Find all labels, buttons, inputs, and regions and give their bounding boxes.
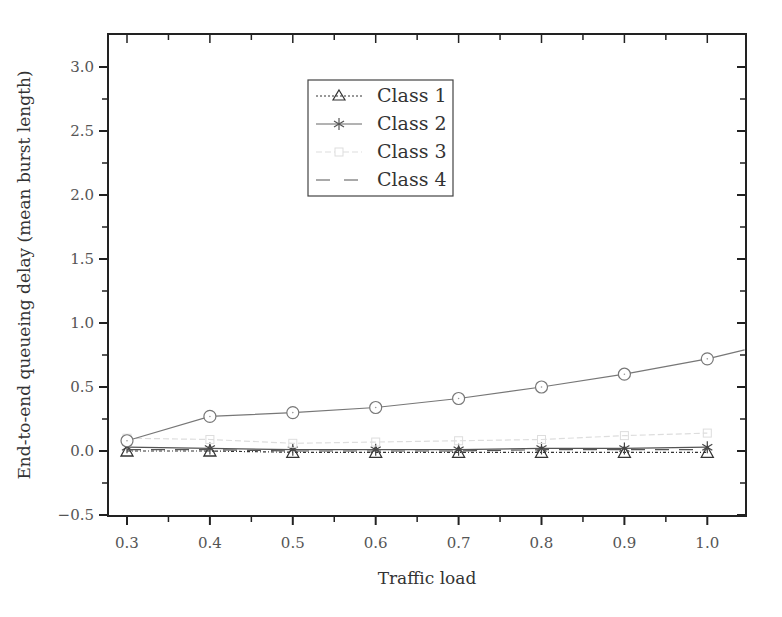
- y-axis-label: End-to-end queueing delay (mean burst le…: [14, 70, 34, 479]
- x-axis-label: Traffic load: [378, 568, 477, 588]
- y-tick-label: 1.0: [70, 314, 94, 332]
- series-class-3: [123, 429, 711, 447]
- legend-label: Class 1: [377, 84, 447, 106]
- legend: Class 1 Class 2 Class 3 Class 4: [308, 80, 453, 196]
- y-tick-label: 0.5: [70, 378, 94, 396]
- legend-label: Class 3: [377, 140, 447, 162]
- x-tick-label: 0.7: [447, 534, 471, 552]
- y-tick-label: −0.5: [58, 506, 94, 524]
- x-tick-label: 1.0: [695, 534, 719, 552]
- x-tick-label: 0.4: [198, 534, 222, 552]
- legend-label: Class 4: [377, 168, 447, 190]
- x-tick-label: 0.8: [530, 534, 554, 552]
- y-tick-label: 1.5: [70, 250, 94, 268]
- series-overall: [121, 350, 745, 447]
- x-tick-label: 0.6: [364, 534, 388, 552]
- y-tick-label: 2.5: [70, 122, 94, 140]
- square-marker-icon: [335, 148, 343, 156]
- x-tick-label: 0.3: [115, 534, 139, 552]
- x-tick-label: 0.5: [281, 534, 305, 552]
- y-tick-label: 2.0: [70, 186, 94, 204]
- y-tick-label: 3.0: [70, 58, 94, 76]
- x-tick-label: 0.9: [612, 534, 636, 552]
- series-layer: [121, 350, 745, 457]
- line-chart: 0.30.40.50.60.70.80.91.0−0.50.00.51.01.5…: [0, 0, 782, 617]
- legend-label: Class 2: [377, 112, 447, 134]
- y-tick-label: 0.0: [70, 442, 94, 460]
